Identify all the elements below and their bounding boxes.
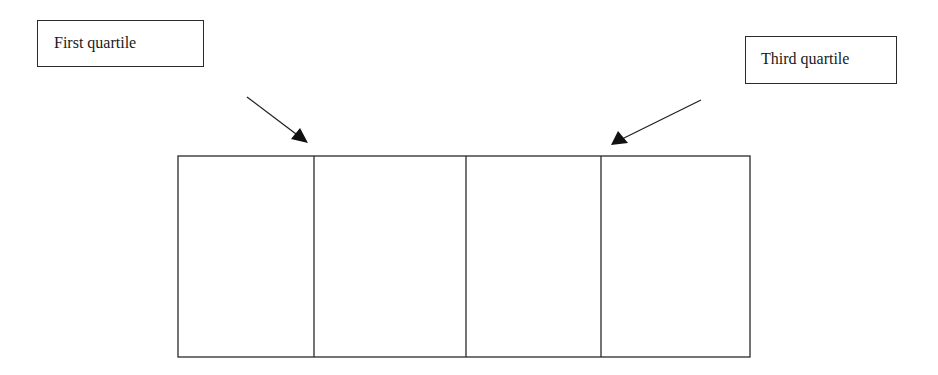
first-quartile-arrow-icon [247, 97, 308, 143]
third-quartile-arrow-icon [611, 100, 701, 145]
quartile-diagram [0, 0, 938, 375]
quartile-box [178, 156, 750, 357]
